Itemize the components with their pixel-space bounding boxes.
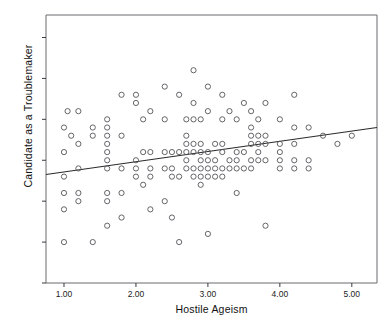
data-point (277, 117, 282, 122)
data-point (292, 158, 297, 163)
data-point (191, 174, 196, 179)
data-point (76, 141, 81, 146)
data-point (191, 141, 196, 146)
data-point (256, 149, 261, 154)
data-point (248, 158, 253, 163)
data-point (162, 166, 167, 171)
data-point (69, 133, 74, 138)
y-axis-title: Candidate as a Troublemaker (22, 0, 34, 236)
data-point (105, 166, 110, 171)
data-point (220, 166, 225, 171)
data-point (198, 166, 203, 171)
data-point (198, 117, 203, 122)
x-axis-title: Hostile Ageism (46, 303, 377, 315)
data-point (177, 92, 182, 97)
data-point (234, 158, 239, 163)
data-point (148, 174, 153, 179)
data-point (263, 223, 268, 228)
data-point (169, 215, 174, 220)
plot-canvas (0, 0, 388, 325)
data-point (234, 117, 239, 122)
y-axis-tick-labels: .001.002.003.004.005.006.00 (0, 0, 42, 325)
data-point (205, 166, 210, 171)
data-point (213, 174, 218, 179)
data-point (177, 239, 182, 244)
data-point (162, 199, 167, 204)
data-point (141, 117, 146, 122)
data-point (90, 125, 95, 130)
data-point (105, 141, 110, 146)
data-point (61, 190, 66, 195)
x-axis-tick-label: 4.00 (260, 289, 300, 299)
data-point (105, 199, 110, 204)
scatter-plot-figure: .001.002.003.004.005.006.00 1.002.003.00… (0, 0, 388, 325)
data-point (292, 92, 297, 97)
data-point (184, 166, 189, 171)
data-point (90, 133, 95, 138)
data-point (184, 158, 189, 163)
data-point (184, 149, 189, 154)
data-point (169, 166, 174, 171)
data-point (227, 109, 232, 114)
data-point (248, 125, 253, 130)
data-point (191, 117, 196, 122)
data-point (234, 190, 239, 195)
data-point (248, 166, 253, 171)
data-point (141, 149, 146, 154)
data-point (292, 125, 297, 130)
data-point (90, 239, 95, 244)
x-axis-tick-label: 3.00 (188, 289, 228, 299)
data-point (61, 174, 66, 179)
data-point (65, 109, 70, 114)
data-point (162, 149, 167, 154)
data-point (205, 158, 210, 163)
data-point (105, 190, 110, 195)
data-point (213, 141, 218, 146)
data-point (105, 158, 110, 163)
data-point (119, 133, 124, 138)
data-point (248, 109, 253, 114)
data-point (213, 166, 218, 171)
regression-line (46, 128, 377, 175)
data-point (198, 182, 203, 187)
data-point (76, 199, 81, 204)
data-point (61, 207, 66, 212)
data-point (256, 158, 261, 163)
data-point (169, 174, 174, 179)
data-point (105, 133, 110, 138)
data-point (148, 109, 153, 114)
data-point (162, 84, 167, 89)
data-point (292, 141, 297, 146)
data-point (105, 149, 110, 154)
data-point (133, 100, 138, 105)
data-point (61, 149, 66, 154)
data-point (220, 92, 225, 97)
data-point (306, 125, 311, 130)
data-point (191, 100, 196, 105)
data-point (227, 166, 232, 171)
data-point (105, 223, 110, 228)
data-point (141, 182, 146, 187)
data-point (133, 166, 138, 171)
data-point (335, 141, 340, 146)
data-point (220, 174, 225, 179)
x-axis-tick-label: 5.00 (332, 289, 372, 299)
data-point (61, 239, 66, 244)
data-point (227, 158, 232, 163)
data-point (234, 149, 239, 154)
data-point (292, 166, 297, 171)
data-point (213, 158, 218, 163)
data-point (205, 231, 210, 236)
data-point (277, 141, 282, 146)
data-point (198, 141, 203, 146)
data-point (184, 141, 189, 146)
data-point (263, 100, 268, 105)
data-point (119, 166, 124, 171)
data-point (234, 166, 239, 171)
data-point (256, 117, 261, 122)
data-point (277, 166, 282, 171)
data-point (177, 174, 182, 179)
data-point (306, 158, 311, 163)
data-point (241, 149, 246, 154)
x-axis-tick-label: 1.00 (44, 289, 84, 299)
